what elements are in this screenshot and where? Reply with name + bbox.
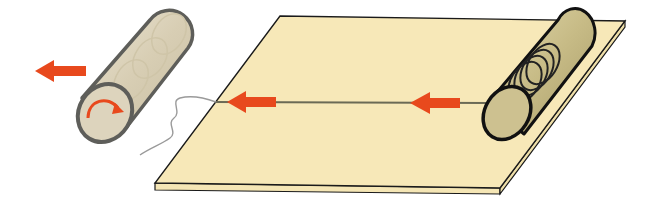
diagram-canvas	[0, 0, 653, 206]
pull-arrow-left	[35, 60, 86, 82]
take-up-roller	[67, 7, 193, 152]
diagram-stage	[0, 0, 653, 206]
